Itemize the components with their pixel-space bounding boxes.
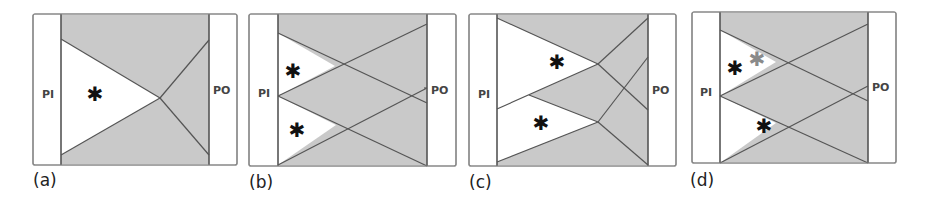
- asterisk-icon: ✱: [289, 120, 306, 140]
- pi-label: PI: [258, 87, 270, 100]
- pi-label: PI: [700, 86, 712, 99]
- po-label: PO: [431, 84, 448, 97]
- po-label: PO: [213, 84, 230, 97]
- gray-asterisk-icon: ✱: [749, 49, 766, 69]
- panel-d: [692, 12, 896, 163]
- po-label: PO: [652, 84, 669, 97]
- figure-stage: (a)PIPO✱(b)PIPO✱✱(c)PIPO✱✱(d)PIPO✱✱✱: [0, 0, 928, 201]
- asterisk-icon: ✱: [756, 116, 773, 136]
- panel-label: (c): [469, 172, 492, 192]
- pi-label: PI: [42, 88, 54, 101]
- panel-label: (b): [249, 172, 273, 192]
- asterisk-icon: ✱: [285, 61, 302, 81]
- panel-c: [469, 14, 676, 166]
- diagram-canvas: [0, 0, 928, 201]
- panel-label: (a): [33, 170, 57, 190]
- pi-label: PI: [478, 88, 490, 101]
- asterisk-icon: ✱: [87, 84, 104, 104]
- asterisk-icon: ✱: [533, 113, 550, 133]
- asterisk-icon: ✱: [549, 52, 566, 72]
- panel-b: [249, 14, 456, 166]
- asterisk-icon: ✱: [727, 58, 744, 78]
- panel-a: [33, 14, 237, 165]
- po-label: PO: [872, 81, 889, 94]
- panel-label: (d): [690, 170, 714, 190]
